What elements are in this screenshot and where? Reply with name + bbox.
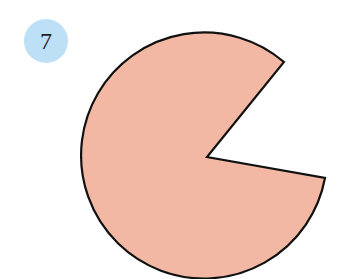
circle-sector-shape bbox=[81, 32, 325, 278]
pie-sector-figure bbox=[0, 0, 348, 279]
